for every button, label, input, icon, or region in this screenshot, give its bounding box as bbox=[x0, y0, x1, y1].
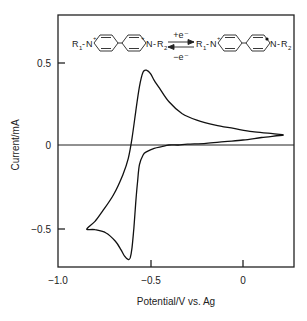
y-tick-label: 0 bbox=[45, 140, 51, 151]
cv-chart: 0.5 0 −0.5 Current/mA −1.0 −0.5 0 Potent… bbox=[0, 0, 307, 321]
radical-dot bbox=[265, 37, 268, 40]
viologen-radical-cation: R 1 - N + N - R 2 bbox=[196, 35, 292, 51]
svg-text:2: 2 bbox=[164, 45, 168, 51]
svg-text:2: 2 bbox=[288, 45, 292, 51]
svg-text:+e⁻: +e⁻ bbox=[173, 30, 188, 40]
svg-text:R: R bbox=[281, 39, 288, 49]
y-axis: 0.5 0 −0.5 Current/mA bbox=[10, 58, 65, 235]
viologen-dication: R 1 - N + + N - R 2 bbox=[72, 35, 168, 51]
svg-text:R: R bbox=[196, 39, 203, 49]
svg-text:R: R bbox=[72, 39, 79, 49]
x-tick-label: 0 bbox=[240, 275, 246, 286]
svg-text:+: + bbox=[141, 35, 145, 41]
y-tick-label: −0.5 bbox=[31, 224, 51, 235]
y-tick-label: 0.5 bbox=[37, 58, 51, 69]
svg-text:N: N bbox=[270, 39, 277, 49]
y-axis-title: Current/mA bbox=[10, 119, 21, 170]
svg-text:−e⁻: −e⁻ bbox=[173, 52, 188, 62]
reaction-scheme: R 1 - N + + N - R 2 +e⁻ −e⁻ bbox=[72, 30, 292, 62]
svg-text:-: - bbox=[206, 39, 209, 49]
svg-text:-: - bbox=[153, 39, 156, 49]
equilibrium-arrows: +e⁻ −e⁻ bbox=[168, 30, 194, 62]
svg-text:N: N bbox=[146, 39, 153, 49]
x-tick-label: −1.0 bbox=[48, 275, 68, 286]
svg-text:N: N bbox=[210, 39, 217, 49]
x-axis-title: Potential/V vs. Ag bbox=[137, 296, 215, 307]
svg-text:-: - bbox=[82, 39, 85, 49]
cv-curve bbox=[87, 70, 284, 260]
x-tick-label: −0.5 bbox=[141, 275, 161, 286]
svg-text:R: R bbox=[157, 39, 164, 49]
svg-text:N: N bbox=[86, 39, 93, 49]
svg-text:-: - bbox=[277, 39, 280, 49]
